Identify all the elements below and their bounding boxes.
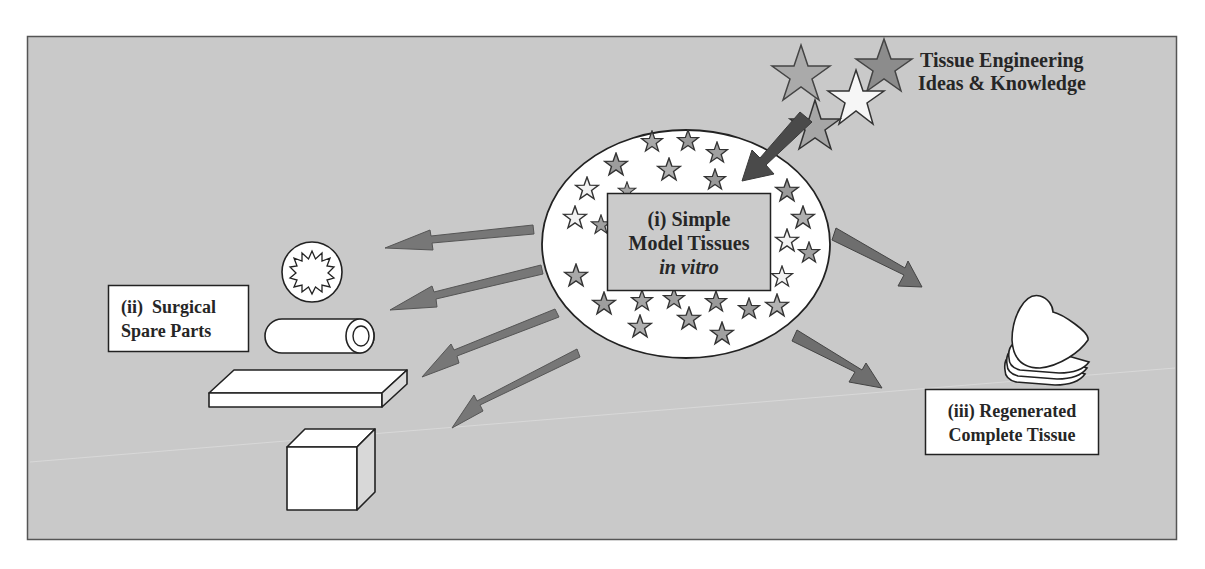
center-label-line2: Model Tissues	[629, 232, 750, 254]
source-title-line1: Tissue Engineering	[920, 49, 1084, 72]
source-title-line2: Ideas & Knowledge	[918, 72, 1086, 95]
slab-icon	[209, 370, 407, 407]
surgical-parts-label-box	[109, 286, 249, 352]
right-label-line2: Complete Tissue	[949, 425, 1076, 445]
left-label-line1: (ii) Surgical	[121, 297, 216, 318]
center-label-line1: (i) Simple	[648, 208, 731, 231]
tube-icon	[265, 319, 374, 353]
star-ring-icon	[282, 242, 342, 302]
left-label-line2: Spare Parts	[121, 321, 211, 341]
right-label-line1: (iii) Regenerated	[948, 401, 1076, 422]
cube-icon	[287, 429, 375, 510]
center-label-line3: in vitro	[659, 256, 718, 278]
tissue-engineering-diagram: Tissue Engineering Ideas & Knowledge	[0, 0, 1205, 569]
